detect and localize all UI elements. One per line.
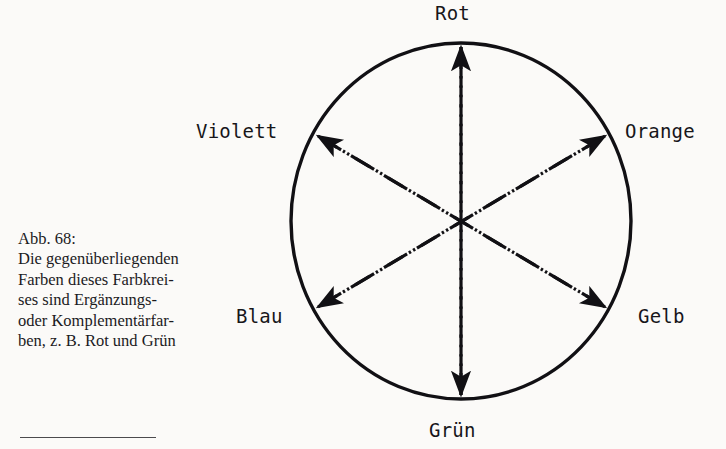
color-label-violett: Violett <box>196 120 277 142</box>
color-label-orange: Orange <box>625 120 695 142</box>
caption-line: oder Komplementärfar- <box>18 311 250 331</box>
color-label-rot: Rot <box>435 2 470 24</box>
color-label-gruen: Grün <box>429 419 476 441</box>
caption-line: Farben dieses Farbkrei- <box>18 270 250 290</box>
caption-line: ses sind Ergänzungs- <box>18 290 250 310</box>
figure-caption: Abb. 68: Die gegenüberliegenden Farben d… <box>18 229 250 351</box>
figure-page: Rot Violett Orange Blau Gelb Grün Abb. 6… <box>0 0 726 449</box>
caption-number: Abb. 68: <box>18 229 250 249</box>
caption-line: ben, z. B. Rot und Grün <box>18 331 250 351</box>
caption-line: Die gegenüberliegenden <box>18 249 250 269</box>
color-wheel-diagram <box>0 0 726 449</box>
color-label-gelb: Gelb <box>638 305 685 327</box>
footnote-separator-rule <box>20 437 156 438</box>
